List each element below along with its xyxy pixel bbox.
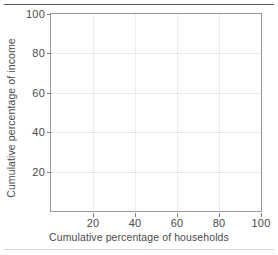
gridline-horizontal [51, 172, 261, 173]
x-axis-tick-label: 60 [171, 217, 184, 229]
y-axis-tick [47, 132, 51, 133]
plot-area: 2040608010020406080100 [50, 13, 262, 212]
top-divider-rule [4, 4, 274, 5]
gridline-horizontal [51, 132, 261, 133]
gridline-vertical [177, 14, 178, 211]
x-axis-tick-label: 80 [213, 217, 226, 229]
y-axis-tick-label: 60 [32, 87, 45, 99]
x-axis-tick-label: 20 [87, 217, 100, 229]
y-axis-tick [47, 93, 51, 94]
y-axis-tick [47, 53, 51, 54]
gridline-vertical [93, 14, 94, 211]
x-axis-title: Cumulative percentage of households [0, 231, 278, 243]
gridline-vertical [135, 14, 136, 211]
gridlines [51, 14, 261, 211]
x-axis-tick-label: 40 [129, 217, 142, 229]
gridline-horizontal [51, 53, 261, 54]
bottom-divider-rule [4, 249, 274, 250]
y-axis-title: Cumulative percentage of income [5, 18, 17, 218]
x-axis-tick-label: 100 [252, 217, 271, 229]
gridline-horizontal [51, 93, 261, 94]
y-axis-tick-label: 40 [32, 126, 45, 138]
y-axis-tick [47, 14, 51, 15]
gridline-vertical [219, 14, 220, 211]
y-axis-tick [47, 172, 51, 173]
y-axis-tick-label: 100 [26, 8, 45, 20]
y-axis-tick-label: 20 [32, 166, 45, 178]
y-axis-tick-label: 80 [32, 47, 45, 59]
chart-figure: 2040608010020406080100 Cumulative percen… [0, 0, 278, 255]
